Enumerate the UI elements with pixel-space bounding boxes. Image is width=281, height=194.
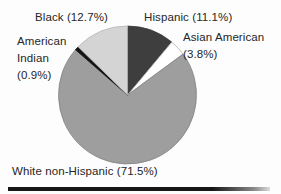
label-american-indian-line3: (0.9%) [17,67,66,84]
label-black-slice: Black (12.7%) [35,9,108,26]
label-american-indian-line2: Indian [17,50,66,67]
bottom-rule [8,187,270,191]
label-american-indian-slice: American Indian (0.9%) [17,33,66,84]
label-white-non-hispanic-slice: White non-Hispanic (71.5%) [12,163,158,180]
label-asian-american-line1: Asian American [183,29,264,46]
label-asian-american-line2: (3.8%) [183,46,264,63]
figure-canvas: Black (12.7%) Hispanic (11.1%) Asian Ame… [0,0,281,194]
label-american-indian-line1: American [17,33,66,50]
label-asian-american-slice: Asian American (3.8%) [183,29,264,63]
label-hispanic-slice: Hispanic (11.1%) [144,9,232,26]
